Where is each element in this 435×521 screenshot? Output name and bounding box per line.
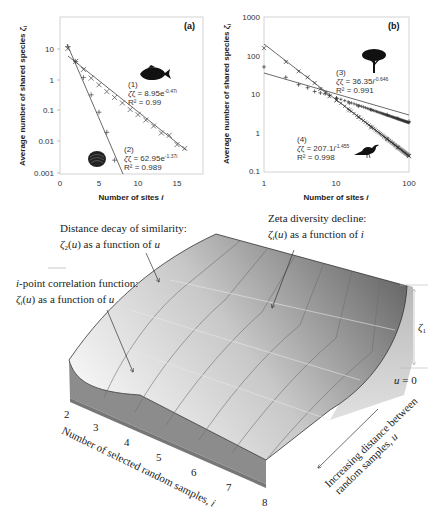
annotation-i-point-title: i-point correlation function: xyxy=(16,277,138,289)
surface-diagram: ζ1 u = 0 Distance decay of similarity: ζ… xyxy=(0,0,435,521)
annotation-i-point-sub: ζi(u) as a function of u xyxy=(16,293,115,307)
i-tick: 2 xyxy=(64,408,70,420)
u-zero-label: u = 0 xyxy=(394,374,417,386)
annotation-zeta-decline-title: Zeta diversity decline: xyxy=(268,212,366,224)
zeta1-label: ζ1 xyxy=(418,321,426,335)
i-tick: 5 xyxy=(156,451,162,463)
i-tick: 6 xyxy=(191,466,197,478)
annotation-distance-decay-sub: ζ2(u) as a function of u xyxy=(60,238,160,252)
i-tick: 3 xyxy=(93,421,99,433)
i-tick: 7 xyxy=(226,481,232,493)
i-tick: 4 xyxy=(124,436,130,448)
annotation-zeta-decline-sub: ζi(u) as a function of i xyxy=(268,228,364,242)
annotation-distance-decay-title: Distance decay of similarity: xyxy=(60,222,187,234)
i-tick: 8 xyxy=(262,496,268,508)
